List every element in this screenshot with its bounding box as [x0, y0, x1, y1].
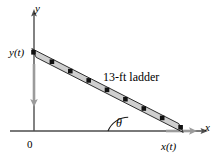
ladder-rung — [50, 59, 55, 64]
ladder-rung — [105, 88, 110, 93]
angle-label: θ — [116, 117, 122, 129]
ladder-rung — [68, 69, 73, 74]
ladder-rung — [86, 78, 91, 83]
y-axis-label: y — [35, 3, 40, 14]
ladder-bottom-position-label: x(t) — [161, 141, 176, 152]
ladder-diagram: y x y(t) x(t) 0 θ 13-ft ladder — [0, 0, 219, 161]
origin-label: 0 — [27, 139, 33, 150]
ladder-length-label: 13-ft ladder — [103, 71, 159, 83]
ladder-rung — [123, 97, 128, 102]
ladder-rung — [31, 50, 36, 55]
ladder-top-position-label: y(t) — [9, 47, 24, 58]
ladder-rung — [178, 125, 183, 130]
ladder-rung — [142, 106, 147, 111]
ladder-rungs — [31, 50, 183, 130]
ladder-rung — [160, 116, 165, 121]
x-axis-label: x — [205, 122, 210, 133]
